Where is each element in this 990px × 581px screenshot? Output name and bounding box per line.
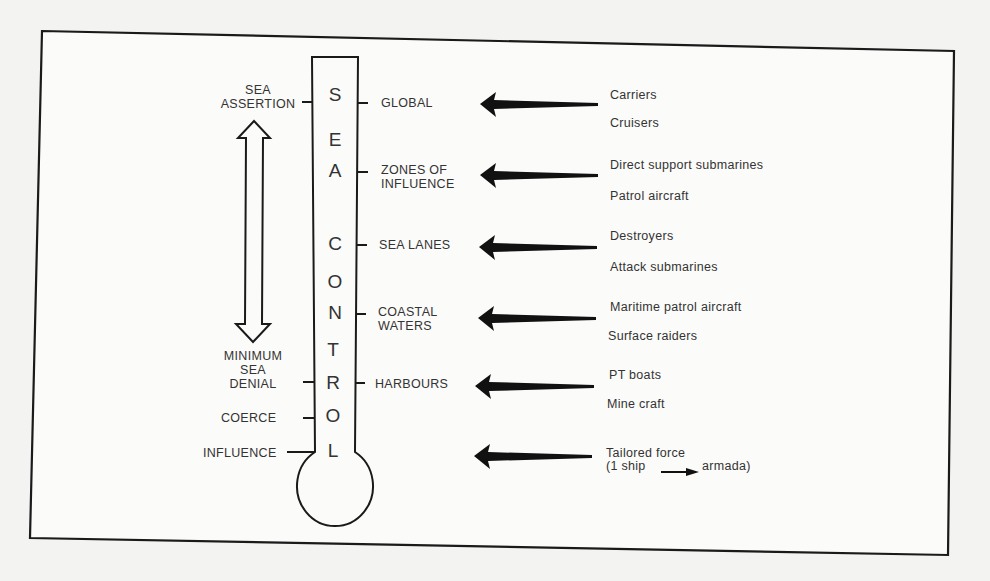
label-line: MINIMUM [213,349,293,363]
force-attack-submarines: Attack submarines [610,260,718,274]
thermo-letter-c: C [312,233,358,255]
force-pt-boats: PT boats [609,368,661,382]
label-influence: INFLUENCE [203,446,277,460]
level-coastal-waters: COASTAL WATERS [378,305,438,333]
force-direct-support-submarines: Direct support submarines [610,158,763,172]
label-line: SEA [213,83,303,97]
label-line: ZONES OF [381,163,455,177]
label-line: DENIAL [213,377,293,391]
thermo-letter-n: N [312,302,358,324]
thermo-letter-o2: O [310,405,356,427]
label-line: INFLUENCE [381,177,455,191]
thermo-letter-o: O [312,271,358,293]
force-tailored-force: Tailored force [606,446,685,460]
thermo-letter-t: T [310,339,356,361]
label-coerce: COERCE [221,411,276,425]
label-minimum-sea-denial: MINIMUM SEA DENIAL [213,349,293,391]
force-carriers: Carriers [610,88,657,102]
force-patrol-aircraft: Patrol aircraft [610,189,689,203]
force-armada: armada) [702,459,751,473]
force-surface-raiders: Surface raiders [608,329,697,343]
thermo-letter-e: E [312,129,358,151]
force-maritime-patrol-aircraft: Maritime patrol aircraft [610,300,742,314]
label-sea-assertion: SEA ASSERTION [213,83,303,111]
label-line: WATERS [378,319,438,333]
label-line: ASSERTION [213,97,303,111]
thermo-letter-l: L [310,440,356,462]
thermo-letter-r: R [310,372,356,394]
sea-control-diagram [0,0,990,581]
force-destroyers: Destroyers [610,229,673,243]
thermo-letter-a: A [312,160,358,182]
label-line: COASTAL [378,305,438,319]
force-cruisers: Cruisers [610,116,659,130]
thermo-letter-s: S [312,84,358,106]
force-mine-craft: Mine craft [607,397,665,411]
level-global: GLOBAL [381,96,433,110]
level-sea-lanes: SEA LANES [379,238,451,252]
force-one-ship: (1 ship [606,459,646,473]
level-zones-of-influence: ZONES OF INFLUENCE [381,163,455,191]
label-line: SEA [213,363,293,377]
level-harbours: HARBOURS [375,377,448,391]
